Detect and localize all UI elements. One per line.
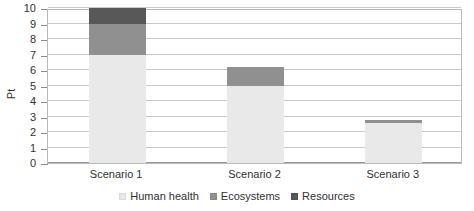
y-tick-label-5: 5 — [14, 81, 36, 92]
bar-segment[interactable] — [365, 123, 422, 163]
legend-swatch-icon — [119, 193, 126, 200]
x-axis-label: Scenario 3 — [333, 168, 453, 180]
bar-group[interactable] — [365, 8, 422, 163]
y-tick-label-9: 9 — [14, 19, 36, 30]
legend-label: Human health — [130, 190, 199, 202]
x-axis-label: Scenario 1 — [56, 168, 176, 180]
legend-label: Resources — [302, 190, 355, 202]
bar-segment[interactable] — [89, 8, 146, 24]
legend-item[interactable]: Human health — [119, 190, 199, 202]
y-tick-label-2: 2 — [14, 127, 36, 138]
y-tick-label-4: 4 — [14, 96, 36, 107]
bar-group[interactable] — [89, 8, 146, 163]
bar-segment[interactable] — [89, 24, 146, 55]
y-axis-title: Pt — [5, 79, 17, 109]
y-tick-label-7: 7 — [14, 50, 36, 61]
legend-swatch-icon — [291, 193, 298, 200]
y-tick-label-6: 6 — [14, 65, 36, 76]
legend-label: Ecosystems — [221, 190, 280, 202]
stacked-bar-chart: Pt 012345678910 Scenario 1Scenario 2Scen… — [0, 0, 474, 211]
legend-item[interactable]: Ecosystems — [210, 190, 280, 202]
y-tick-label-3: 3 — [14, 112, 36, 123]
bar-group[interactable] — [227, 8, 284, 163]
bar-segment[interactable] — [365, 120, 422, 124]
legend-item[interactable]: Resources — [291, 190, 355, 202]
bar-segment[interactable] — [89, 55, 146, 164]
y-tick-label-8: 8 — [14, 34, 36, 45]
legend-swatch-icon — [210, 193, 217, 200]
chart-legend: Human healthEcosystemsResources — [0, 190, 474, 202]
y-tick-label-1: 1 — [14, 143, 36, 154]
bar-segment[interactable] — [227, 86, 284, 164]
plot-area — [47, 9, 462, 164]
y-tick-label-10: 10 — [14, 3, 36, 14]
y-tick-label-0: 0 — [14, 158, 36, 169]
bar-segment[interactable] — [227, 67, 284, 86]
x-axis-label: Scenario 2 — [195, 168, 315, 180]
